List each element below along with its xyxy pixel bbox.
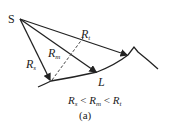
caption: (a)	[79, 110, 91, 121]
relation-formula: Rs < Rm < Rt	[68, 95, 121, 108]
diagram: S Rs Rm Rt L Rs < Rm < Rt (a)	[0, 0, 177, 127]
ray-rt-label: Rt	[81, 28, 90, 42]
point-l-label: L	[98, 76, 105, 88]
ray-rs-label: Rs	[26, 58, 36, 72]
ray-rm-label: Rm	[48, 47, 60, 61]
point-s-label: S	[8, 13, 15, 25]
